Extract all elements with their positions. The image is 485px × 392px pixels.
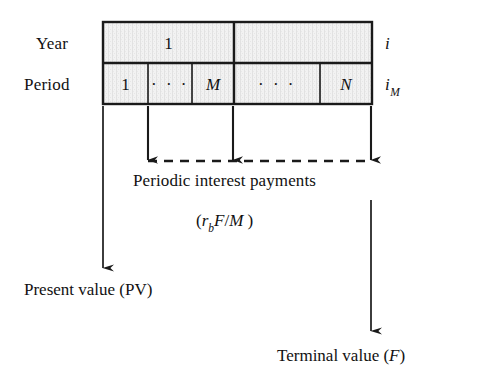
period-cell-ellipsis-1: · · · [148, 76, 192, 93]
period-side-label-subscript: M [390, 86, 400, 98]
diagram-graphics [0, 0, 485, 392]
year-row-label: Year [36, 35, 68, 52]
interest-payment-arrows [148, 106, 371, 160]
formula-M: M [229, 211, 243, 230]
formula-r-subscript: b [208, 222, 214, 234]
formula-F: F [214, 211, 224, 230]
formula-close-paren: ) [243, 211, 253, 230]
interest-payments-caption: Periodic interest payments [133, 172, 316, 189]
cash-flow-diagram: Year Period 1 i 1 · · · M · · · N iM Per… [0, 0, 485, 392]
period-row-label: Period [24, 76, 70, 93]
period-cell-1: 1 [103, 76, 148, 93]
year-cell-1: 1 [103, 35, 234, 52]
period-side-label: iM [385, 76, 399, 97]
period-cell-ellipsis-2: · · · [234, 76, 320, 93]
interest-formula: (rbF/M ) [196, 212, 253, 233]
period-cell-m: M [192, 76, 234, 93]
terminal-value-symbol: F [389, 346, 399, 365]
terminal-value-text: Terminal value ( [277, 346, 389, 365]
terminal-value-close-paren: ) [399, 346, 405, 365]
year-side-label: i [385, 35, 390, 52]
period-cell-n: N [320, 76, 372, 93]
present-value-label: Present value (PV) [24, 281, 152, 298]
terminal-value-label: Terminal value (F) [277, 347, 405, 364]
